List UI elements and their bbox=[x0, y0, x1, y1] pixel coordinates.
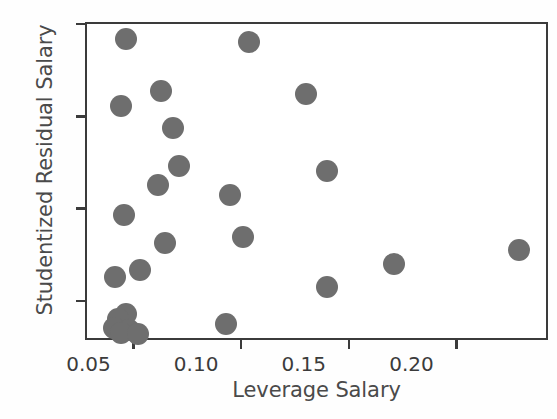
x-axis-title: Leverage Salary bbox=[85, 378, 548, 402]
x-axis-tick-label: 0.10 bbox=[151, 352, 241, 376]
data-point bbox=[238, 31, 260, 53]
data-point bbox=[383, 253, 405, 275]
plot-area bbox=[85, 22, 548, 340]
data-point bbox=[295, 83, 317, 105]
data-point bbox=[154, 232, 176, 254]
data-point bbox=[147, 174, 169, 196]
data-point bbox=[232, 226, 254, 248]
data-point bbox=[115, 28, 137, 50]
data-point bbox=[127, 323, 149, 345]
data-point bbox=[104, 266, 126, 288]
data-point bbox=[508, 239, 530, 261]
data-point bbox=[316, 276, 338, 298]
data-point bbox=[129, 259, 151, 281]
y-axis-tick bbox=[76, 115, 85, 118]
data-point bbox=[150, 80, 172, 102]
x-axis-tick-label: 0.05 bbox=[43, 352, 133, 376]
y-axis-title: Studentized Residual Salary bbox=[30, 0, 60, 340]
y-axis-tick bbox=[76, 300, 85, 303]
y-axis-tick bbox=[76, 23, 85, 26]
y-axis-tick bbox=[76, 207, 85, 210]
data-point bbox=[110, 95, 132, 117]
data-point bbox=[219, 184, 241, 206]
x-axis-tick bbox=[240, 340, 243, 349]
x-axis-tick-label: 0.20 bbox=[366, 352, 456, 376]
data-point bbox=[316, 160, 338, 182]
data-point bbox=[168, 155, 190, 177]
x-axis-tick-label: 0.15 bbox=[259, 352, 349, 376]
data-point bbox=[162, 117, 184, 139]
x-axis-tick bbox=[455, 340, 458, 349]
data-point bbox=[215, 313, 237, 335]
data-point bbox=[113, 204, 135, 226]
x-axis-tick bbox=[348, 340, 351, 349]
scatter-plot-figure: Studentized Residual Salary Leverage Sal… bbox=[0, 0, 557, 419]
